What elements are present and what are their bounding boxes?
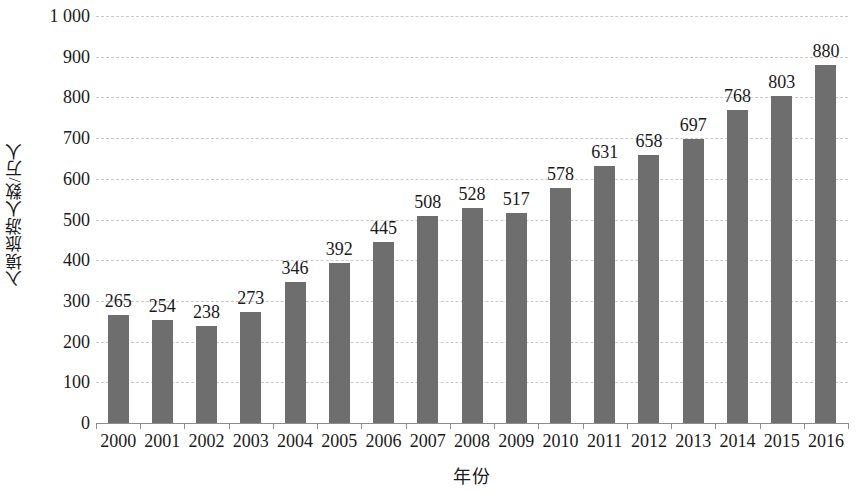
y-axis-title-text: 入境旅游人数/万人 (6, 142, 23, 287)
bar (638, 155, 659, 423)
y-tick-label: 500 (22, 211, 90, 229)
x-tick-mark (627, 423, 628, 429)
plot-area: 2652542382733463924455085285175786316586… (96, 16, 848, 423)
bar (152, 320, 173, 423)
bar (815, 65, 836, 423)
x-tick-label: 2016 (799, 432, 853, 450)
x-tick-mark (450, 423, 451, 429)
y-tick-label: 100 (22, 373, 90, 391)
x-tick-mark (494, 423, 495, 429)
y-tick-label: 900 (22, 48, 90, 66)
bar-value-label: 445 (357, 219, 411, 237)
bar-value-label: 392 (312, 240, 366, 258)
x-tick-mark (760, 423, 761, 429)
x-tick-mark (671, 423, 672, 429)
x-tick-mark (96, 423, 97, 429)
x-axis-tick-labels: 2000200120022003200420052006200720082009… (96, 432, 848, 458)
bar (373, 242, 394, 423)
bar (285, 282, 306, 423)
y-tick-label: 800 (22, 88, 90, 106)
y-tick-label: 1 000 (22, 7, 90, 25)
x-tick-mark (848, 423, 849, 429)
x-tick-mark (804, 423, 805, 429)
bar-value-label: 517 (489, 190, 543, 208)
y-tick-label: 400 (22, 251, 90, 269)
bar (594, 166, 615, 423)
x-tick-mark (583, 423, 584, 429)
x-tick-mark (273, 423, 274, 429)
bar-value-label: 273 (224, 289, 278, 307)
bar (683, 139, 704, 423)
x-tick-mark (184, 423, 185, 429)
bar-value-label: 880 (799, 42, 853, 60)
x-tick-mark (229, 423, 230, 429)
bar-value-label: 578 (533, 165, 587, 183)
bar (329, 263, 350, 423)
x-tick-mark (538, 423, 539, 429)
gridline (96, 16, 848, 17)
y-tick-label: 200 (22, 333, 90, 351)
y-axis-tick-labels: 01002003004005006007008009001 000 (22, 0, 90, 493)
bar-value-label: 697 (666, 116, 720, 134)
x-axis-line (96, 423, 848, 424)
x-tick-mark (317, 423, 318, 429)
bar (108, 315, 129, 423)
x-tick-mark (361, 423, 362, 429)
bar (240, 312, 261, 423)
gridline (96, 57, 848, 58)
bar (771, 96, 792, 423)
y-tick-label: 600 (22, 170, 90, 188)
bar-chart: 入境旅游人数/万人 01002003004005006007008009001 … (0, 0, 860, 493)
x-axis-title: 年份 (96, 462, 848, 488)
x-tick-mark (406, 423, 407, 429)
bar-value-label: 658 (622, 132, 676, 150)
bar (462, 208, 483, 423)
y-tick-label: 300 (22, 292, 90, 310)
bar (550, 188, 571, 423)
x-tick-mark (715, 423, 716, 429)
y-tick-label: 700 (22, 129, 90, 147)
x-tick-mark (140, 423, 141, 429)
bar-value-label: 803 (755, 73, 809, 91)
bar (727, 110, 748, 423)
y-tick-label: 0 (22, 414, 90, 432)
bar (196, 326, 217, 423)
bar-value-label: 346 (268, 259, 322, 277)
bar (417, 216, 438, 423)
bar (506, 213, 527, 423)
